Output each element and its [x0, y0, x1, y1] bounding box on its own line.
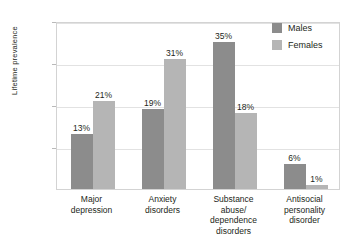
bar-value-label: 21% — [87, 90, 121, 100]
bar-males — [71, 134, 93, 189]
bar-value-label: 1% — [300, 174, 334, 184]
legend-item-females: Females — [272, 39, 323, 51]
y-axis-label: Lifetime prevalence — [10, 1, 19, 121]
bar-value-label: 6% — [278, 153, 312, 163]
legend-label-males: Males — [288, 23, 312, 33]
legend-item-males: Males — [272, 22, 323, 34]
legend: Males Females — [272, 22, 323, 56]
bar-chart: Lifetime prevalence 40%302010 13%21%19%3… — [0, 0, 355, 249]
bar-value-label: 31% — [158, 48, 192, 58]
x-axis-category-label: Antisocialpersonalitydisorder — [263, 194, 347, 226]
legend-label-females: Females — [288, 40, 323, 50]
bar-group: 35%18% — [213, 23, 257, 189]
bar-males — [142, 109, 164, 189]
bar-group: 19%31% — [142, 23, 186, 189]
bar-value-label: 35% — [207, 31, 241, 41]
bar-females — [164, 59, 186, 189]
bar-females — [235, 113, 257, 189]
bar-females — [306, 185, 328, 189]
bar-group: 13%21% — [71, 23, 115, 189]
bar-males — [213, 42, 235, 189]
bar-females — [93, 101, 115, 189]
bar-value-label: 18% — [229, 102, 263, 112]
clipped-caption — [40, 0, 270, 5]
legend-swatch-icon-females — [272, 40, 282, 50]
legend-swatch-icon-males — [272, 23, 282, 33]
